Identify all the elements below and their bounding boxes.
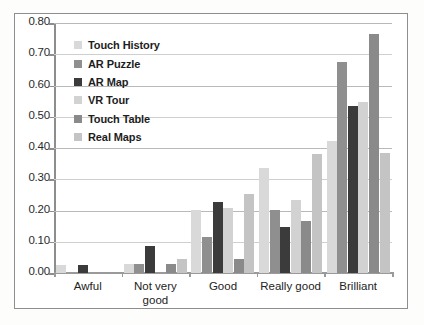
y-axis-tick-label: 0.70	[28, 46, 50, 58]
bar-group	[324, 23, 392, 273]
bar	[369, 34, 379, 273]
y-axis-tick-mark	[49, 86, 54, 88]
y-axis-tick-mark	[49, 242, 54, 244]
legend-item-label: Touch History	[88, 39, 160, 51]
legend-swatch-icon	[74, 60, 82, 68]
bar	[166, 264, 176, 273]
bar	[191, 210, 201, 273]
bar	[244, 194, 254, 273]
legend-item[interactable]: Touch History	[74, 36, 194, 54]
legend-item[interactable]: VR Tour	[74, 91, 194, 109]
y-axis-tick-label: 0.10	[28, 234, 50, 246]
bar-chart-figure: 0.000.100.200.300.400.500.600.700.80 Tou…	[0, 0, 424, 325]
bar	[56, 265, 66, 273]
legend-item[interactable]: AR Map	[74, 73, 194, 91]
y-axis-tick-label: 0.40	[28, 140, 50, 152]
x-axis-tick-mark	[392, 272, 394, 277]
x-axis-category-label: Really good	[257, 279, 325, 293]
y-axis-tick-label: 0.50	[28, 109, 50, 121]
bar	[213, 202, 223, 273]
chart-legend: Touch HistoryAR PuzzleAR MapVR TourTouch…	[74, 36, 194, 146]
bar	[270, 210, 280, 273]
legend-item-label: Real Maps	[88, 131, 142, 143]
y-axis-tick-mark	[49, 211, 54, 213]
legend-item-label: Touch Table	[88, 113, 150, 125]
bar	[358, 102, 368, 273]
bar	[337, 62, 347, 273]
legend-item[interactable]: Real Maps	[74, 128, 194, 146]
bar	[327, 141, 337, 273]
bar-group	[189, 23, 257, 273]
x-axis-category-label: Brilliant	[324, 279, 392, 293]
x-axis-tick-mark	[257, 272, 259, 277]
y-axis-tick-mark	[49, 54, 54, 56]
x-axis-category-label: Not very good	[122, 279, 190, 307]
bar	[380, 153, 390, 273]
bar	[291, 200, 301, 273]
y-axis-tick-label: 0.60	[28, 78, 50, 90]
y-axis-tick-label: 0.80	[28, 15, 50, 27]
x-axis-tick-mark	[54, 272, 56, 277]
legend-swatch-icon	[74, 96, 82, 104]
legend-swatch-icon	[74, 41, 82, 49]
y-axis-tick-mark	[49, 148, 54, 150]
bar	[202, 237, 212, 273]
legend-item-label: AR Map	[88, 76, 128, 88]
y-axis-tick-label: 0.20	[28, 203, 50, 215]
legend-item[interactable]: AR Puzzle	[74, 54, 194, 72]
x-axis-tick-mark	[122, 272, 124, 277]
bar	[301, 221, 311, 273]
legend-item[interactable]: Touch Table	[74, 110, 194, 128]
bar	[312, 154, 322, 273]
bar	[280, 227, 290, 273]
bar-group	[257, 23, 325, 273]
y-axis-tick-label: 0.30	[28, 171, 50, 183]
legend-swatch-icon	[74, 133, 82, 141]
bar	[134, 264, 144, 273]
y-axis-tick-label: 0.00	[28, 265, 50, 277]
bar	[145, 246, 155, 273]
y-axis-tick-mark	[49, 117, 54, 119]
legend-item-label: AR Puzzle	[88, 58, 140, 70]
x-axis-tick-mark	[324, 272, 326, 277]
bar	[259, 168, 269, 273]
y-axis-tick-labels: 0.000.100.200.300.400.500.600.700.80	[8, 0, 50, 325]
legend-item-label: VR Tour	[88, 94, 129, 106]
y-axis-tick-mark	[49, 179, 54, 181]
bar	[177, 259, 187, 273]
bar	[234, 259, 244, 273]
bar	[124, 264, 134, 273]
legend-swatch-icon	[74, 115, 82, 123]
bar	[348, 106, 358, 273]
y-axis-tick-mark	[49, 23, 54, 25]
legend-swatch-icon	[74, 78, 82, 86]
x-axis-category-label: Good	[189, 279, 257, 293]
bar	[78, 265, 88, 273]
x-axis-category-label: Awful	[54, 279, 122, 293]
x-axis-tick-mark	[189, 272, 191, 277]
bar	[223, 208, 233, 273]
